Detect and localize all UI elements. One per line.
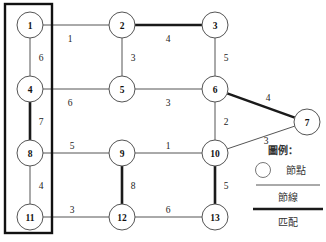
edge-weight-label: 5 — [224, 181, 229, 191]
legend-node-label: 節點 — [286, 164, 306, 176]
node-label: 2 — [120, 21, 125, 31]
matched-edge — [227, 93, 295, 117]
graph-node: 9 — [109, 140, 135, 166]
graph-node: 10 — [202, 140, 228, 166]
edge-weight-label: 6 — [68, 98, 73, 108]
graph-node: 13 — [202, 204, 228, 230]
node-label: 10 — [210, 149, 220, 159]
graph-canvas: 12345678910111213 146356347235148536 圖例：… — [0, 0, 326, 242]
graph-node: 1 — [17, 12, 43, 38]
node-label: 8 — [28, 149, 33, 159]
graph-node: 8 — [17, 140, 43, 166]
edge-weight-label: 1 — [166, 141, 171, 151]
edge-weight-label: 4 — [39, 181, 44, 191]
edge-weight-label: 3 — [166, 98, 171, 108]
node-label: 4 — [28, 85, 33, 95]
node-label: 3 — [213, 21, 218, 31]
node-label: 11 — [26, 213, 35, 223]
graph-node: 5 — [109, 76, 135, 102]
graph-node: 11 — [17, 204, 43, 230]
edges-layer — [30, 25, 295, 217]
node-label: 13 — [210, 213, 220, 223]
legend-title: 圖例： — [268, 144, 298, 156]
graph-node: 6 — [202, 76, 228, 102]
edge-weight-label: 8 — [131, 181, 136, 191]
node-label: 12 — [117, 213, 127, 223]
edge-weight-label: 1 — [68, 34, 73, 44]
edge-weight-label: 7 — [39, 117, 44, 127]
node-label: 6 — [213, 85, 218, 95]
graph-node: 4 — [17, 76, 43, 102]
node-label: 9 — [120, 149, 125, 159]
edge-weight-label: 5 — [70, 141, 75, 151]
edge-weight-label: 6 — [39, 53, 44, 63]
edge-weight-labels-layer: 146356347235148536 — [39, 34, 271, 215]
legend-matching-label: 匹配 — [278, 217, 298, 228]
graph-node: 12 — [109, 204, 135, 230]
graph-node: 2 — [109, 12, 135, 38]
edge-weight-label: 4 — [166, 34, 171, 44]
graph-node: 3 — [202, 12, 228, 38]
graph-figure: 12345678910111213 146356347235148536 圖例：… — [0, 0, 326, 242]
edge-weight-label: 4 — [266, 93, 271, 103]
edge-weight-label: 2 — [224, 117, 229, 127]
graph-node: 7 — [294, 109, 320, 135]
nodes-layer: 12345678910111213 — [17, 12, 320, 230]
edge-weight-label: 5 — [224, 53, 229, 63]
legend: 圖例：節點節線匹配 — [253, 144, 323, 228]
node-label: 1 — [28, 21, 33, 31]
node-label: 7 — [305, 118, 310, 128]
node-label: 5 — [120, 85, 125, 95]
legend-edge-label: 節線 — [278, 191, 298, 203]
legend-node-swatch-icon — [256, 163, 271, 178]
edge-weight-label: 3 — [131, 53, 136, 63]
edge-weight-label: 3 — [70, 205, 75, 215]
edge-weight-label: 6 — [166, 205, 171, 215]
